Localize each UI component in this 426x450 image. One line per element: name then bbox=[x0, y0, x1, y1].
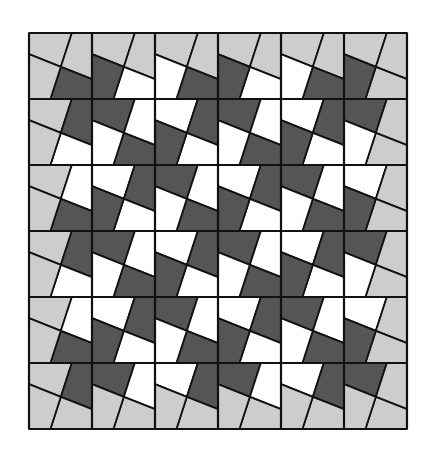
tile-cell bbox=[92, 165, 155, 231]
tile-cell bbox=[155, 33, 218, 99]
tile-cell bbox=[155, 231, 218, 297]
tile-cell bbox=[155, 297, 218, 363]
tile-cell bbox=[344, 99, 407, 165]
tile-cell bbox=[218, 33, 281, 99]
tile-cell bbox=[92, 33, 155, 99]
tile-cell bbox=[281, 363, 344, 429]
tile-cell bbox=[29, 297, 92, 363]
tile-cell bbox=[92, 99, 155, 165]
tile-cell bbox=[218, 165, 281, 231]
tile-cell bbox=[155, 99, 218, 165]
tile-cell bbox=[92, 363, 155, 429]
tile-cell bbox=[29, 231, 92, 297]
tile-cell bbox=[344, 231, 407, 297]
tile-cell bbox=[92, 231, 155, 297]
tile-cell bbox=[155, 165, 218, 231]
tile-cell bbox=[218, 297, 281, 363]
tile-cell bbox=[281, 99, 344, 165]
tile-cell bbox=[29, 363, 92, 429]
tile-cell bbox=[29, 33, 92, 99]
tile-cell bbox=[344, 33, 407, 99]
tile-cell bbox=[218, 99, 281, 165]
tile-cell bbox=[281, 33, 344, 99]
tile-cell bbox=[218, 231, 281, 297]
tile-cell bbox=[218, 363, 281, 429]
tile-cell bbox=[344, 297, 407, 363]
tile-cell bbox=[92, 297, 155, 363]
tile-cell bbox=[29, 165, 92, 231]
tiling-pattern bbox=[0, 0, 426, 450]
tile-cell bbox=[281, 165, 344, 231]
tile-cell bbox=[281, 231, 344, 297]
tile-cell bbox=[281, 297, 344, 363]
tile-cell bbox=[344, 363, 407, 429]
tile-cell bbox=[29, 99, 92, 165]
tile-cell bbox=[344, 165, 407, 231]
tile-cell bbox=[155, 363, 218, 429]
